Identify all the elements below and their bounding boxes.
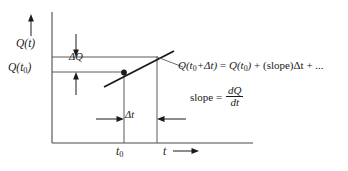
figure-canvas [0, 0, 348, 171]
taylor-plus: + [254, 59, 260, 71]
taylor-lhs: Q(t [178, 59, 193, 71]
taylor-expansion-equation: Q(t0+Δt) = Q(t0) + (slope)Δt + ... [178, 60, 324, 73]
taylor-rhs-1: Q(t [229, 59, 244, 71]
slope-label: slope [190, 91, 213, 103]
slope-equals: = [216, 91, 222, 103]
y-axis-arrow-icon [28, 14, 34, 36]
delta-t-measure-arrows [96, 116, 186, 122]
delta-t-label: Δt [125, 110, 134, 121]
taylor-rhs-2: (slope)Δt [263, 59, 304, 71]
tangent-line [104, 51, 174, 87]
tangent-point-marker [121, 70, 127, 76]
taylor-equals: = [220, 59, 226, 71]
taylor-rhs-1-close: ) [248, 59, 252, 71]
slope-denominator: dt [226, 97, 243, 108]
y-axis-value-label-qt0: Q(t0) [8, 62, 31, 76]
delta-q-label: ΔQ [69, 52, 83, 63]
t0-subscript: 0 [119, 150, 123, 159]
derivative-tangent-figure: Q(t) Q(t0) ΔQ Δt t0 t Q(t0+Δt) = Q(t0) +… [0, 0, 348, 171]
taylor-lhs-mid: +Δt) [197, 59, 218, 71]
slope-definition-equation: slope = dQ dt [190, 85, 244, 108]
slope-fraction: dQ dt [226, 85, 243, 108]
qt0-close: ) [27, 61, 31, 73]
delta-q-measure-arrows [73, 34, 79, 95]
x-axis-arrow-icon [173, 148, 199, 154]
x-axis-label-t: t [163, 146, 166, 158]
x-axis-tick-label-t0: t0 [116, 146, 123, 160]
qt0-base: Q(t [8, 61, 23, 73]
taylor-tail: + ... [306, 59, 323, 71]
y-axis-label-qt: Q(t) [16, 38, 35, 50]
